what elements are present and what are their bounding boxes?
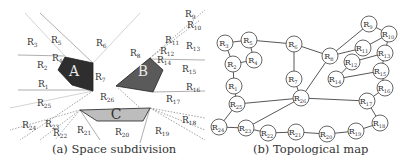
node-r12: R12: [344, 54, 360, 70]
region-label: R24: [22, 120, 36, 131]
node-r24: R24: [211, 119, 227, 135]
region-label: R4: [52, 53, 63, 64]
faint-line: [25, 13, 65, 56]
region-label: R19: [155, 126, 169, 137]
region-label: R17: [166, 94, 180, 105]
node-r22: R22: [260, 125, 276, 141]
obstacle-b: B: [116, 58, 163, 92]
region-label: R2: [37, 60, 48, 71]
left-caption: (a) Space subdivision: [52, 142, 176, 156]
topological-map-panel: R3R5R6R4R2R1R7R8R9R10R11R13R12R15R14R16R…: [211, 16, 397, 142]
node-r25: R25: [229, 96, 245, 112]
node-r21: R21: [288, 124, 304, 140]
node-r4: R4: [246, 52, 262, 68]
region-label: R10: [187, 20, 201, 31]
node-r19: R19: [348, 123, 364, 139]
node-r17: R17: [359, 93, 375, 109]
region-label: R15: [182, 64, 196, 75]
obstacle-a: A: [58, 57, 93, 91]
node-r26: R26: [293, 90, 309, 106]
region-label: R22: [53, 128, 67, 139]
node-r6: R6: [286, 36, 302, 52]
node-r5: R5: [241, 32, 257, 48]
node-r16: R16: [377, 80, 393, 96]
region-label: R21: [77, 125, 91, 136]
region-label: R8: [130, 48, 141, 59]
node-r9: R9: [361, 16, 377, 32]
obstacle-label: C: [111, 106, 122, 122]
right-caption: (b) Topological map: [253, 142, 368, 156]
region-label: R26: [100, 92, 114, 103]
space-subdivision-panel: ABC R3R5R6R4R2R7R1R8R9R10R11R13R12R14R15…: [10, 9, 205, 143]
region-label: R1: [38, 79, 49, 90]
figure: ABC R3R5R6R4R2R7R1R8R9R10R11R13R12R14R15…: [0, 0, 411, 167]
node-r18: R18: [372, 115, 388, 131]
region-label: R7: [95, 72, 106, 83]
obstacle-label: A: [68, 63, 80, 79]
node-r20: R20: [319, 126, 335, 142]
node-r3: R3: [217, 35, 233, 51]
region-label: R16: [186, 82, 200, 93]
region-label: R20: [115, 127, 129, 138]
edge-r26-r17: [301, 98, 367, 101]
node-r10: R10: [381, 26, 397, 42]
region-label: R3: [27, 37, 38, 48]
node-r13: R13: [377, 45, 393, 61]
node-r23: R23: [238, 120, 254, 136]
region-label: R9: [185, 9, 196, 20]
node-r1: R1: [226, 78, 242, 94]
node-r11: R11: [355, 40, 371, 56]
region-label: R18: [182, 115, 196, 126]
node-r8: R8: [322, 48, 338, 64]
node-r7: R7: [286, 71, 302, 87]
obstacle-c: C: [80, 106, 150, 122]
region-label: R5: [51, 35, 62, 46]
node-r15: R15: [373, 63, 389, 79]
region-label: R13: [186, 41, 200, 52]
obstacles: ABC: [58, 57, 163, 122]
obstacle-label: B: [138, 63, 148, 79]
graph-nodes: R3R5R6R4R2R1R7R8R9R10R11R13R12R15R14R16R…: [211, 16, 397, 142]
region-label: R6: [96, 38, 107, 49]
node-r14: R14: [328, 71, 344, 87]
node-r2: R2: [225, 56, 241, 72]
region-label: R11: [165, 35, 179, 46]
